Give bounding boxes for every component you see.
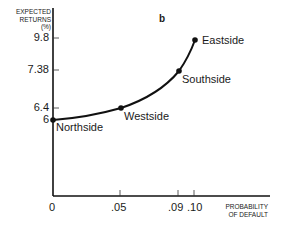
label-westside: Westside	[124, 110, 169, 122]
point-westside	[118, 105, 124, 111]
chart-title: b	[159, 13, 165, 24]
expected-returns-curve	[53, 40, 195, 120]
y-axis-title-line2: RETURNS	[16, 16, 51, 24]
x-axis-title: PROBABILITY OF DEFAULT	[225, 203, 268, 218]
x-axis-title-line2: OF DEFAULT	[225, 211, 268, 219]
y-axis-title: EXPECTED RETURNS (%)	[16, 8, 51, 31]
label-northside: Northside	[56, 121, 103, 133]
x-tick-label-.05: .05	[111, 201, 126, 213]
x-tick-label-.10: .10	[187, 201, 202, 213]
y-tick-label-7.38: 7.38	[28, 63, 49, 75]
y-tick-label-6.4: 6.4	[34, 101, 49, 113]
point-northside	[50, 117, 56, 123]
x-tick-label-.09: .09	[168, 201, 183, 213]
x-axis-title-line1: PROBABILITY	[225, 203, 268, 211]
y-tick-label-6: 6	[43, 113, 49, 125]
point-eastside	[192, 37, 198, 43]
x-tick-label-0: 0	[49, 201, 55, 213]
y-axis-title-line1: EXPECTED	[16, 8, 51, 16]
label-eastside: Eastside	[202, 34, 244, 46]
label-southside: Southside	[182, 73, 231, 85]
y-tick-label-9.8: 9.8	[34, 31, 49, 43]
y-axis-title-line3: (%)	[16, 23, 51, 31]
point-southside	[176, 68, 182, 74]
